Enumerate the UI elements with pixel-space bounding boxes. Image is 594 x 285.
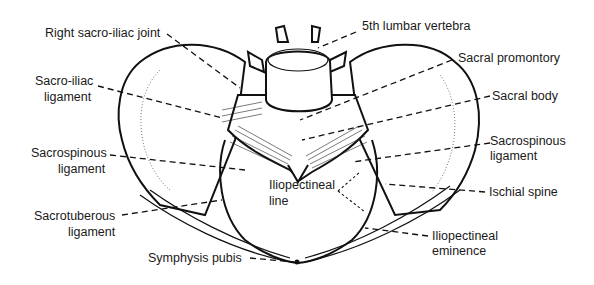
label-sacral-promontory: Sacral promontory [458,51,561,65]
label-symphysis-pubis: Symphysis pubis [148,251,242,265]
label-right-sacro-iliac-joint: Right sacro-iliac joint [45,26,161,40]
label-iliopectineal-line-2: line [269,194,289,208]
label-sacrotuberous-1: Sacrotuberous [34,209,115,223]
leader-iliopectineal-line-a [338,172,360,191]
pelvis-illustration: Right sacro-iliac joint Sacro-iliac liga… [0,0,594,285]
label-sacrospinous-right-1: Sacrospinous [490,134,566,148]
label-sacral-body: Sacral body [492,89,559,103]
label-ischial-spine: Ischial spine [489,185,558,199]
label-sacrotuberous-2: ligament [68,225,116,239]
pelvis-diagram: Right sacro-iliac joint Sacro-iliac liga… [0,0,594,285]
label-sacrospinous-right-2: ligament [490,149,538,163]
symphysis-dot [295,260,300,265]
label-iliopectineal-eminence-2: eminence [432,244,486,258]
label-5th-lumbar-vertebra: 5th lumbar vertebra [362,19,470,33]
label-iliopectineal-line-1: Iliopectineal [269,178,335,192]
label-sacrospinous-left-2: ligament [58,162,106,176]
leader-5th-lumbar [318,32,356,48]
lumbar-vertebral-body [266,52,332,112]
leader-iliopectineal-line-b [338,191,365,212]
label-sacro-iliac-ligament-2: ligament [44,90,92,104]
lumbar-transverse-left [248,52,264,72]
label-sacrospinous-left-1: Sacrospinous [31,146,107,160]
lumbar-transverse-right [330,52,346,72]
label-sacro-iliac-ligament-1: Sacro-iliac [35,74,93,88]
label-iliopectineal-eminence-1: Iliopectineal [432,229,498,243]
lumbar-spinous-right [312,26,320,42]
left-iliac-wing [119,45,245,215]
lumbar-spinous-left [276,26,288,42]
